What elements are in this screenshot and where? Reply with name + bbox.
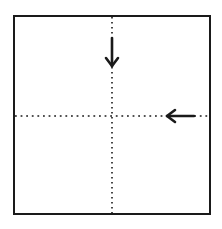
folding-diagram bbox=[0, 0, 222, 229]
